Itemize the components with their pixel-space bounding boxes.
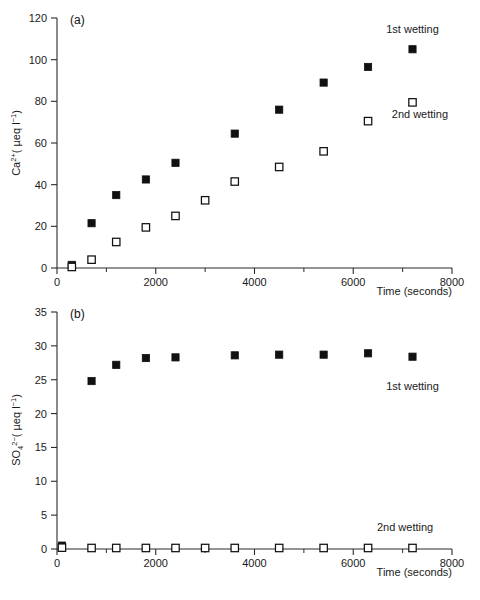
series-label-second-wetting: 2nd wetting (392, 108, 448, 120)
x-tick-label: 0 (54, 276, 60, 288)
panel-label: (b) (70, 307, 85, 321)
series-second-wetting (58, 544, 416, 552)
y-tick-label: 10 (35, 475, 47, 487)
data-point-filled-square (142, 354, 149, 361)
data-point-filled-square (409, 353, 416, 360)
y-axis-title: Ca2+( µeq l−1) (9, 110, 22, 176)
y-tick-label: 0 (41, 543, 47, 555)
data-point-open-square (88, 256, 95, 263)
data-point-open-square (142, 224, 149, 231)
x-tick-label: 6000 (341, 557, 365, 569)
y-tick-label: 100 (29, 54, 47, 66)
data-point-filled-square (231, 130, 238, 137)
data-point-open-square (275, 163, 282, 170)
data-point-filled-square (231, 352, 238, 359)
x-tick-label: 6000 (341, 276, 365, 288)
data-point-open-square (113, 544, 120, 551)
data-point-open-square (409, 544, 416, 551)
y-tick-label: 0 (41, 262, 47, 274)
x-tick-label: 2000 (144, 276, 168, 288)
data-point-open-square (320, 148, 327, 155)
y-tick-label: 120 (29, 12, 47, 24)
data-point-filled-square (276, 106, 283, 113)
scatter-plot-figure: 02000400060008000020406080100120Ca2+( µe… (0, 0, 480, 600)
data-point-open-square (142, 544, 149, 551)
y-tick-label: 25 (35, 374, 47, 386)
data-point-open-square (58, 544, 65, 551)
data-point-open-square (364, 544, 371, 551)
data-point-filled-square (88, 220, 95, 227)
data-point-open-square (231, 178, 238, 185)
x-tick-label: 2000 (144, 557, 168, 569)
data-point-filled-square (142, 176, 149, 183)
data-point-filled-square (276, 351, 283, 358)
data-point-open-square (231, 544, 238, 551)
y-tick-label: 60 (35, 137, 47, 149)
y-tick-label: 20 (35, 408, 47, 420)
data-point-filled-square (113, 361, 120, 368)
y-tick-label: 40 (35, 179, 47, 191)
series-first-wetting (58, 350, 416, 550)
data-point-open-square (172, 212, 179, 219)
panel-label: (a) (70, 13, 85, 27)
y-axis-ticks: 05101520253035 (35, 306, 57, 555)
y-tick-label: 15 (35, 441, 47, 453)
data-point-filled-square (409, 46, 416, 53)
x-axis-title: Time (seconds) (377, 285, 452, 297)
data-point-filled-square (172, 159, 179, 166)
data-point-filled-square (320, 351, 327, 358)
x-tick-label: 4000 (242, 276, 266, 288)
y-tick-label: 30 (35, 340, 47, 352)
panel-a: 02000400060008000020406080100120Ca2+( µe… (9, 12, 464, 297)
data-point-filled-square (113, 191, 120, 198)
data-point-filled-square (172, 354, 179, 361)
data-point-open-square (409, 99, 416, 106)
y-tick-label: 20 (35, 220, 47, 232)
y-tick-label: 5 (41, 509, 47, 521)
data-point-open-square (88, 544, 95, 551)
data-point-filled-square (320, 79, 327, 86)
data-point-filled-square (364, 350, 371, 357)
figure-container: 02000400060008000020406080100120Ca2+( µe… (0, 0, 480, 600)
data-point-open-square (201, 197, 208, 204)
series-first-wetting (68, 46, 416, 269)
data-point-open-square (275, 544, 282, 551)
data-point-open-square (320, 544, 327, 551)
series-label-first-wetting: 1st wetting (386, 23, 439, 35)
series-second-wetting (68, 99, 416, 271)
y-tick-label: 80 (35, 95, 47, 107)
x-axis-title: Time (seconds) (377, 566, 452, 578)
x-tick-label: 0 (54, 557, 60, 569)
data-point-open-square (172, 544, 179, 551)
data-point-open-square (201, 544, 208, 551)
x-tick-label: 4000 (242, 557, 266, 569)
data-point-open-square (364, 117, 371, 124)
panel-b: 0200040006000800005101520253035SO42−( µe… (9, 306, 464, 578)
y-axis-title: SO42−( µeq l−1) (9, 394, 25, 466)
series-label-first-wetting: 1st wetting (386, 380, 439, 392)
y-tick-label: 35 (35, 306, 47, 318)
data-point-open-square (68, 263, 75, 270)
data-point-filled-square (88, 377, 95, 384)
y-axis-ticks: 020406080100120 (29, 12, 57, 274)
series-label-second-wetting: 2nd wetting (377, 521, 433, 533)
data-point-filled-square (364, 63, 371, 70)
data-point-open-square (113, 238, 120, 245)
